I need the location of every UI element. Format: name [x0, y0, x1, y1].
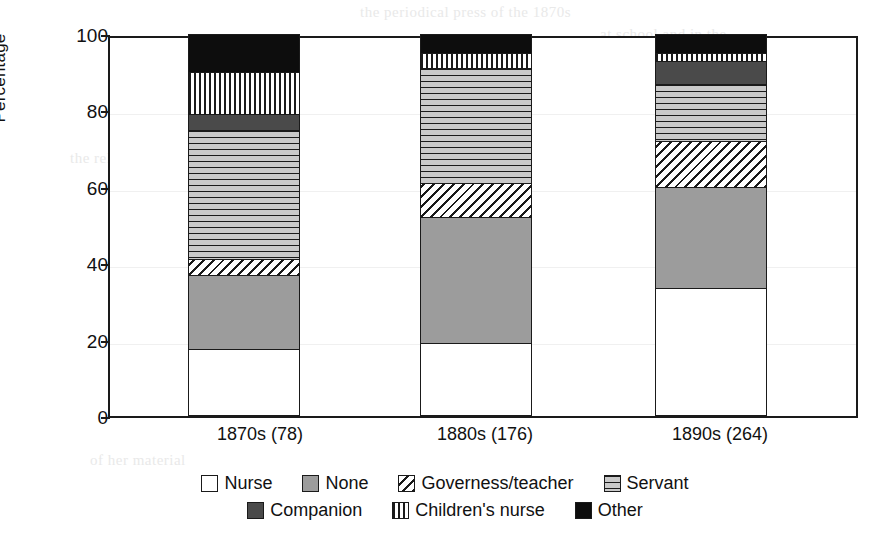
bar-segment-none[interactable]	[188, 275, 300, 349]
legend-label: None	[325, 473, 368, 494]
bar-segment-other[interactable]	[188, 34, 300, 72]
y-axis-ticks: 100806040200	[52, 36, 108, 418]
legend-row-2: CompanionChildren's nurseOther	[0, 497, 890, 524]
bar-segment-none[interactable]	[655, 187, 767, 288]
legend-swatch-icon	[392, 502, 409, 519]
bar-segment-none[interactable]	[420, 217, 532, 343]
legend-swatch-icon	[302, 475, 319, 492]
bar-segment-servant[interactable]	[655, 84, 767, 141]
y-axis-title: Percentage	[0, 0, 10, 178]
legend-label: Governess/teacher	[421, 473, 573, 494]
legend-item[interactable]: Companion	[247, 500, 362, 521]
legend-label: Servant	[627, 473, 689, 494]
chart-legend: NurseNoneGoverness/teacherServant Compan…	[0, 470, 890, 524]
bar-group[interactable]	[655, 38, 767, 416]
bar-segment-nurse[interactable]	[420, 343, 532, 416]
legend-item[interactable]: Governess/teacher	[398, 473, 573, 494]
legend-swatch-icon	[398, 475, 415, 492]
bar-group[interactable]	[188, 38, 300, 416]
bar-segment-governess-teacher[interactable]	[188, 259, 300, 274]
bar-segment-governess-teacher[interactable]	[420, 183, 532, 217]
legend-swatch-icon	[201, 475, 218, 492]
bar-segment-nurse[interactable]	[188, 349, 300, 416]
legend-label: Other	[598, 500, 643, 521]
bar-group[interactable]	[420, 38, 532, 416]
x-axis-label-0: 1870s (78)	[140, 424, 380, 445]
legend-item[interactable]: None	[302, 473, 368, 494]
legend-label: Nurse	[224, 473, 272, 494]
stacked-bar[interactable]	[655, 38, 767, 416]
bar-segment-children-s-nurse[interactable]	[188, 72, 300, 114]
legend-label: Companion	[270, 500, 362, 521]
x-axis-label-1: 1880s (176)	[365, 424, 605, 445]
bar-segment-companion[interactable]	[188, 114, 300, 129]
legend-swatch-icon	[604, 475, 621, 492]
bar-segment-servant[interactable]	[188, 130, 300, 260]
plot-area	[108, 36, 858, 418]
stacked-bar[interactable]	[420, 38, 532, 416]
legend-row-1: NurseNoneGoverness/teacherServant	[0, 470, 890, 497]
bar-segment-other[interactable]	[655, 34, 767, 53]
bar-segment-companion[interactable]	[655, 61, 767, 84]
legend-swatch-icon	[575, 502, 592, 519]
bar-segment-servant[interactable]	[420, 68, 532, 183]
legend-item[interactable]: Other	[575, 500, 643, 521]
legend-label: Children's nurse	[415, 500, 545, 521]
legend-swatch-icon	[247, 502, 264, 519]
bar-segment-governess-teacher[interactable]	[655, 141, 767, 187]
stacked-bar[interactable]	[188, 38, 300, 416]
bar-segment-children-s-nurse[interactable]	[420, 53, 532, 68]
stacked-bar-chart-figure: Percentage 100806040200 1870s (78) 1880s…	[0, 0, 890, 554]
legend-item[interactable]: Nurse	[201, 473, 272, 494]
x-axis-label-2: 1890s (264)	[600, 424, 840, 445]
bar-segment-children-s-nurse[interactable]	[655, 53, 767, 61]
bar-segment-other[interactable]	[420, 34, 532, 53]
legend-item[interactable]: Servant	[604, 473, 689, 494]
bar-segment-nurse[interactable]	[655, 288, 767, 416]
legend-item[interactable]: Children's nurse	[392, 500, 545, 521]
